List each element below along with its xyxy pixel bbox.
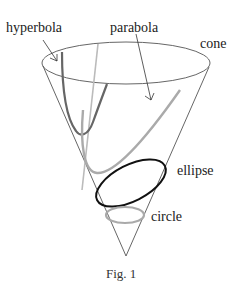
label-ellipse: ellipse <box>177 163 214 178</box>
label-hyperbola: hyperbola <box>6 20 63 35</box>
cone-top-rim <box>42 42 210 84</box>
figure-caption: Fig. 1 <box>106 266 136 281</box>
parabola-curve <box>82 90 180 173</box>
hyperbola-arrow <box>43 40 57 61</box>
label-cone: cone <box>200 36 226 51</box>
parabola-arrow <box>136 34 151 100</box>
label-parabola: parabola <box>110 20 159 35</box>
hyperbola-curve <box>62 52 107 134</box>
circle-curve <box>106 207 144 223</box>
conic-sections-diagram: hyperbola parabola cone ellipse circle F… <box>0 0 238 285</box>
label-circle: circle <box>151 209 182 224</box>
